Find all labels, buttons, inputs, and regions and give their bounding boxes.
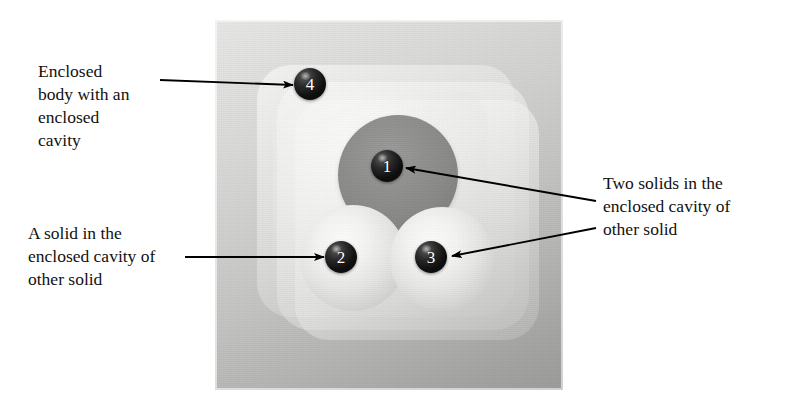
caption-enclosed-body: Enclosed body with an enclosed cavity	[38, 60, 178, 152]
figure-container: Enclosed body with an enclosed cavity A …	[0, 0, 785, 412]
callout-label-2: 2	[337, 249, 346, 266]
rendered-model-panel	[215, 20, 563, 390]
caption-solid-in-enclosed-cavity: A solid in the enclosed cavity of other …	[28, 222, 188, 291]
callout-label-3: 3	[427, 249, 436, 266]
callout-label-1: 1	[383, 158, 392, 175]
caption-two-solids-in-enclosed-cavity: Two solids in the enclosed cavity of oth…	[603, 172, 773, 241]
callout-marker-2[interactable]: 2	[325, 241, 357, 273]
callout-marker-1[interactable]: 1	[371, 150, 403, 182]
callout-marker-4[interactable]: 4	[294, 68, 326, 100]
callout-marker-3[interactable]: 3	[415, 241, 447, 273]
callout-label-4: 4	[306, 76, 315, 93]
